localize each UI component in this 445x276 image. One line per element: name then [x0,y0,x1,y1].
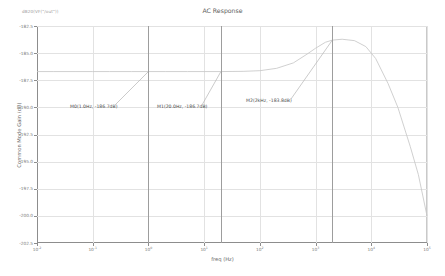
marker-leader-line-m0 [115,72,148,105]
ac-response-plot-window: dB20(VF("/out")) AC Response -182.5-185.… [0,0,445,276]
marker-vertical-line-m1[interactable] [221,26,222,243]
marker-label-m2[interactable]: M2(2kHz, -183.8dB) [246,98,292,103]
common-mode-gain-curve [37,39,427,216]
marker-vertical-line-m0[interactable] [148,26,149,243]
marker-vertical-line-m2[interactable] [332,26,333,243]
marker-label-m0[interactable]: M0(1.0Hz, -186.7dB) [70,104,117,109]
x-axis-title: freq (Hz) [0,256,445,262]
marker-label-m1[interactable]: M1(20.0Hz, -186.7dB) [157,104,207,109]
curve-layer [0,0,445,276]
y-axis-title: Common Mode Gain (dB) [16,80,22,190]
marker-leader-line-m1 [202,72,221,105]
marker-leader-line-m2 [291,40,332,99]
y-axis-title-holder: Common Mode Gain (dB) [8,0,20,276]
